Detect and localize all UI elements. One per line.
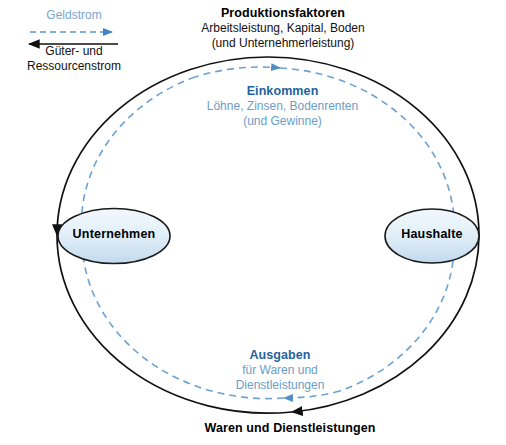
legend-goods-label-line1: Güter- und	[0, 44, 148, 59]
goods-services-label: Waren und Dienstleistungen	[180, 421, 400, 436]
node-label-firms[interactable]: Unternehmen	[58, 227, 170, 241]
node-label-households[interactable]: Haushalte	[384, 227, 480, 241]
goods-services-title: Waren und Dienstleistungen	[180, 421, 400, 436]
production-factors-label: Produktionsfaktoren Arbeitsleistung, Kap…	[173, 6, 393, 51]
production-factors-line2: (und Unternehmerleistung)	[173, 36, 393, 51]
legend-goods-label: Güter- und Ressourcenstrom	[0, 44, 148, 74]
income-line1: Löhne, Zinsen, Bodenrenten	[180, 99, 385, 114]
production-factors-line1: Arbeitsleistung, Kapital, Boden	[173, 21, 393, 36]
production-factors-title: Produktionsfaktoren	[173, 6, 393, 21]
legend-goods-label-line2: Ressourcenstrom	[0, 59, 148, 74]
spending-title: Ausgaben	[200, 348, 360, 363]
spending-label: Ausgaben für Waren und Dienstleistungen	[200, 348, 360, 393]
income-line2: (und Gewinne)	[180, 114, 385, 129]
spending-line2: Dienstleistungen	[200, 378, 360, 393]
spending-line1: für Waren und	[200, 363, 360, 378]
income-arc	[192, 67, 280, 78]
income-title: Einkommen	[180, 84, 385, 99]
circular-flow-diagram: Geldstrom Güter- und Ressourcenstrom Pro…	[0, 0, 506, 445]
income-label: Einkommen Löhne, Zinsen, Bodenrenten (un…	[180, 84, 385, 129]
legend: Geldstrom Güter- und Ressourcenstrom	[0, 8, 148, 80]
